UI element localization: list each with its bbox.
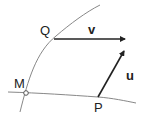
point-m-marker (24, 91, 29, 96)
label-v: v (88, 22, 96, 37)
label-p: P (94, 100, 103, 115)
label-m: M (14, 76, 25, 91)
vector-u-arrow (98, 51, 124, 97)
label-u: u (126, 68, 134, 83)
diagram-canvas: Q M P v u (0, 0, 144, 119)
label-q: Q (40, 23, 50, 38)
